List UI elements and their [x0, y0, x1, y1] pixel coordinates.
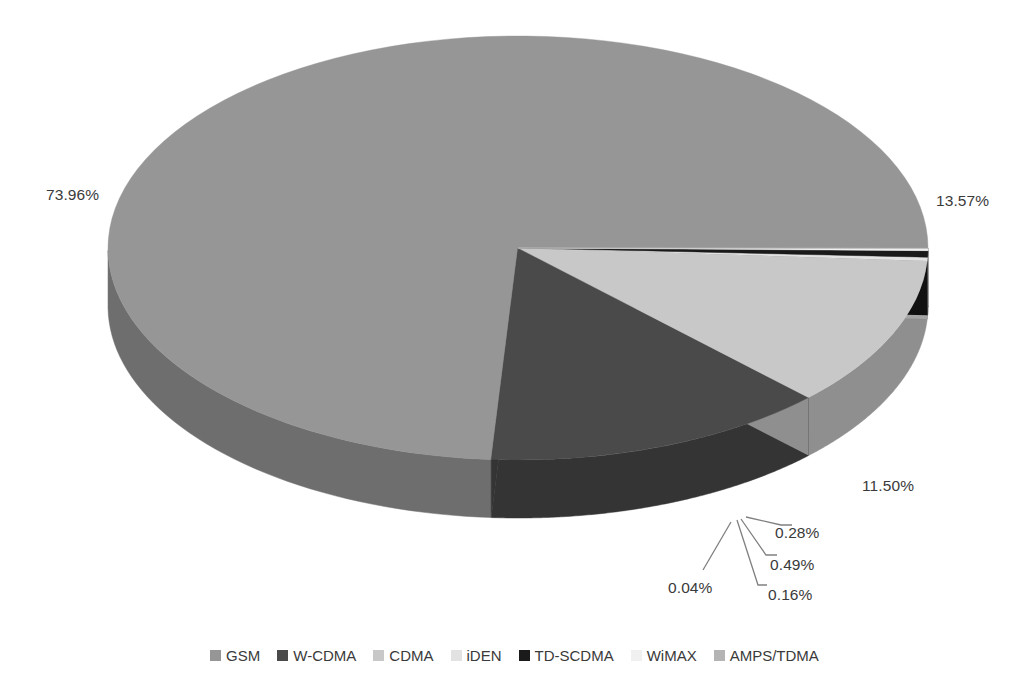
pie-top-faces [108, 36, 928, 460]
pie-chart-canvas [0, 0, 1029, 688]
legend-item-label: TD-SCDMA [535, 648, 614, 663]
data-label-gsm: 73.96% [46, 186, 99, 204]
leader-line-wimax [737, 520, 767, 585]
data-label-tdscdma: 0.49% [770, 556, 814, 574]
data-label-wimax: 0.16% [768, 586, 812, 604]
legend-item-label: GSM [226, 648, 260, 663]
legend-item-w-cdma[interactable]: W-CDMA [277, 648, 356, 663]
legend-swatch-icon [631, 650, 642, 661]
legend-swatch-icon [210, 650, 221, 661]
legend-swatch-icon [373, 650, 384, 661]
data-label-iden: 0.28% [775, 524, 819, 542]
data-label-cdma: 11.50% [862, 477, 914, 495]
legend-item-label: W-CDMA [293, 648, 356, 663]
legend-item-cdma[interactable]: CDMA [373, 648, 433, 663]
legend-item-wimax[interactable]: WiMAX [631, 648, 697, 663]
data-label-amps: 0.04% [668, 579, 712, 597]
legend-item-iden[interactable]: iDEN [451, 648, 502, 663]
data-label-wcdma: 13.57% [936, 192, 989, 210]
legend-swatch-icon [451, 650, 462, 661]
legend-item-amps-tdma[interactable]: AMPS/TDMA [714, 648, 819, 663]
legend-item-label: CDMA [389, 648, 433, 663]
leader-line-amps [703, 522, 731, 570]
legend-item-label: WiMAX [647, 648, 697, 663]
pie-3d-body [108, 36, 928, 518]
chart-legend: GSMW-CDMACDMAiDENTD-SCDMAWiMAXAMPS/TDMA [0, 648, 1029, 663]
legend-item-label: iDEN [467, 648, 502, 663]
legend-item-td-scdma[interactable]: TD-SCDMA [519, 648, 614, 663]
legend-swatch-icon [714, 650, 725, 661]
pie-chart-figure: 73.96% 13.57% 11.50% 0.28% 0.49% 0.16% 0… [0, 0, 1029, 688]
legend-swatch-icon [519, 650, 530, 661]
legend-item-label: AMPS/TDMA [730, 648, 819, 663]
legend-item-gsm[interactable]: GSM [210, 648, 260, 663]
legend-swatch-icon [277, 650, 288, 661]
